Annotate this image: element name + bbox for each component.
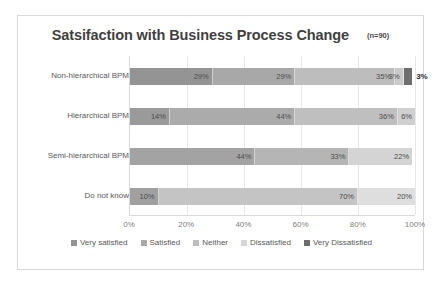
category-label: Hierarchical BPM bbox=[24, 111, 129, 121]
bar-segment: 36% bbox=[295, 108, 398, 125]
bar-value-label: 44% bbox=[276, 112, 291, 121]
bar-segment: 44% bbox=[130, 148, 255, 165]
bar-segment: 20% bbox=[358, 188, 415, 205]
legend-item[interactable]: Dissatisfied bbox=[241, 238, 291, 247]
axis-tick-label: 20% bbox=[178, 220, 194, 229]
legend-label: Dissatisfied bbox=[250, 238, 291, 247]
bar-segment: 3% bbox=[404, 68, 413, 85]
legend-swatch-icon bbox=[71, 240, 77, 246]
page-title: Satsifaction with Business Process Chang… bbox=[52, 27, 349, 43]
bar-segment: 3% bbox=[395, 68, 404, 85]
category-label: Non-hierarchical BPM bbox=[24, 71, 129, 81]
chart-container: Satsifaction with Business Process Chang… bbox=[17, 15, 424, 270]
bar-value-label: 36% bbox=[379, 112, 394, 121]
plot-area: 29%29%35%3%3%14%44%36%6%44%33%22%10%70%2… bbox=[129, 56, 415, 216]
chart-title-row: Satsifaction with Business Process Chang… bbox=[18, 26, 423, 44]
bar-value-label: 3% bbox=[389, 72, 400, 81]
bar-row: 14%44%36%6% bbox=[130, 108, 415, 125]
bar-value-label: 44% bbox=[236, 152, 251, 161]
legend-label: Very Dissatisfied bbox=[313, 238, 372, 247]
bar-value-label: 29% bbox=[276, 72, 291, 81]
bar-value-label: 20% bbox=[397, 192, 412, 201]
category-label: Semi-hierarchical BPM bbox=[24, 151, 129, 161]
bar-segment: 14% bbox=[130, 108, 170, 125]
legend-swatch-icon bbox=[193, 240, 199, 246]
bar-value-label: 33% bbox=[330, 152, 345, 161]
bar-row: 29%29%35%3%3% bbox=[130, 68, 415, 85]
bar-segment: 70% bbox=[159, 188, 359, 205]
legend-swatch-icon bbox=[304, 240, 310, 246]
legend-item[interactable]: Very satisfied bbox=[71, 238, 128, 247]
bar-value-label: 6% bbox=[401, 112, 412, 121]
bar-row: 10%70%20% bbox=[130, 188, 415, 205]
bar-segment: 22% bbox=[349, 148, 412, 165]
value-axis-ticks: 0%20%40%60%80%100% bbox=[129, 218, 415, 232]
legend-item[interactable]: Satisfied bbox=[141, 238, 181, 247]
category-axis-labels: Non-hierarchical BPMHierarchical BPMSemi… bbox=[18, 56, 129, 231]
legend-label: Neither bbox=[202, 238, 228, 247]
bar-value-label: 3% bbox=[416, 72, 428, 81]
bar-segment: 29% bbox=[130, 68, 213, 85]
bar-segment: 44% bbox=[170, 108, 295, 125]
chart-legend: Very satisfiedSatisfiedNeitherDissatisfi… bbox=[18, 238, 425, 247]
bar-value-label: 10% bbox=[139, 192, 154, 201]
bar-segment: 33% bbox=[255, 148, 349, 165]
axis-tick-label: 100% bbox=[405, 220, 425, 229]
category-label: Do not know bbox=[24, 191, 129, 201]
bar-segment: 29% bbox=[213, 68, 296, 85]
bar-row: 44%33%22% bbox=[130, 148, 415, 165]
axis-tick-label: 60% bbox=[293, 220, 309, 229]
plot-wrapper: Non-hierarchical BPMHierarchical BPMSemi… bbox=[18, 56, 425, 231]
axis-tick-label: 80% bbox=[350, 220, 366, 229]
legend-item[interactable]: Neither bbox=[193, 238, 228, 247]
bar-value-label: 22% bbox=[394, 152, 409, 161]
bar-value-label: 70% bbox=[339, 192, 354, 201]
legend-swatch-icon bbox=[141, 240, 147, 246]
legend-swatch-icon bbox=[241, 240, 247, 246]
legend-label: Satisfied bbox=[150, 238, 181, 247]
bar-segment: 6% bbox=[398, 108, 415, 125]
bar-value-label: 14% bbox=[151, 112, 166, 121]
legend-label: Very satisfied bbox=[80, 238, 128, 247]
bar-segment: 10% bbox=[130, 188, 159, 205]
axis-tick-label: 0% bbox=[123, 220, 135, 229]
sample-size-note: (n=90) bbox=[367, 31, 389, 40]
bar-segment: 35% bbox=[295, 68, 395, 85]
bar-value-label: 29% bbox=[194, 72, 209, 81]
axis-tick-label: 40% bbox=[235, 220, 251, 229]
legend-item[interactable]: Very Dissatisfied bbox=[304, 238, 372, 247]
